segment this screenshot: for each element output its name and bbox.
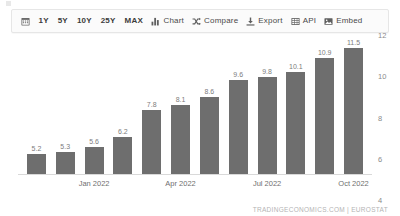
compare-label: Compare [204, 17, 238, 25]
calendar-button[interactable] [17, 10, 34, 32]
y-axis-tick: 12 [378, 32, 386, 40]
bar-value-label: 8.1 [176, 96, 186, 103]
bar-slot[interactable]: 5.6 [80, 40, 109, 174]
range-button-1y[interactable]: 1Y [34, 10, 53, 32]
chart-type-button[interactable]: Chart [147, 10, 188, 32]
bar-value-label: 9.8 [262, 68, 272, 75]
bar-slot[interactable]: 11.5 [339, 40, 368, 174]
bar[interactable]: 9.6 [229, 80, 248, 174]
y-axis-tick: 8 [378, 115, 382, 123]
range-button-25y[interactable]: 25Y [96, 10, 120, 32]
embed-label: Embed [336, 17, 362, 25]
embed-button[interactable]: Embed [320, 10, 366, 32]
bar-value-label: 10.9 [318, 49, 332, 56]
x-axis-tick: Jul 2022 [253, 180, 281, 188]
bar[interactable]: 5.3 [56, 152, 75, 174]
plot-region: 5.25.35.66.27.88.18.69.69.810.110.911.5 [18, 40, 372, 175]
compare-button[interactable]: Compare [188, 10, 242, 32]
bar-slot[interactable]: 9.8 [253, 40, 282, 174]
calendar-icon [21, 17, 30, 26]
range-label: 1Y [39, 17, 49, 25]
bar[interactable]: 10.9 [315, 58, 334, 174]
y-axis-tick: 6 [378, 156, 382, 164]
bar[interactable]: 9.8 [258, 77, 277, 174]
bar-value-label: 6.2 [118, 128, 128, 135]
range-button-5y[interactable]: 5Y [53, 10, 72, 32]
grid-api-icon [291, 17, 300, 26]
top-spacer [0, 0, 400, 8]
bar-value-label: 10.1 [289, 63, 303, 70]
x-axis-tick: Oct 2022 [338, 180, 368, 188]
y-axis: 4681012 [374, 36, 398, 201]
range-label: 25Y [101, 17, 116, 25]
download-export-icon [246, 17, 255, 26]
chart-area: 5.25.35.66.27.88.18.69.69.810.110.911.5 … [0, 36, 400, 201]
bar-slot[interactable]: 8.1 [166, 40, 195, 174]
bar-value-label: 5.2 [32, 145, 42, 152]
export-label: Export [258, 17, 282, 25]
bar[interactable]: 5.2 [27, 154, 46, 174]
bar-slot[interactable]: 9.6 [224, 40, 253, 174]
bar[interactable]: 5.6 [85, 147, 104, 174]
image-embed-icon [324, 17, 333, 26]
bar-value-label: 7.8 [147, 101, 157, 108]
bar-slot[interactable]: 5.3 [51, 40, 80, 174]
range-button-max[interactable]: MAX [120, 10, 147, 32]
range-label: MAX [125, 17, 143, 25]
bar-chart-icon [151, 17, 160, 26]
bar[interactable]: 6.2 [113, 137, 132, 174]
x-axis-tick: Apr 2022 [165, 180, 195, 188]
range-label: 10Y [77, 17, 92, 25]
bar[interactable]: 11.5 [344, 48, 363, 174]
bar[interactable]: 8.1 [171, 105, 190, 174]
bar-series: 5.25.35.66.27.88.18.69.69.810.110.911.5 [18, 40, 372, 174]
corner-marker [6, 1, 11, 6]
bar-slot[interactable]: 5.2 [22, 40, 51, 174]
chart-type-label: Chart [163, 17, 184, 25]
api-label: API [303, 17, 317, 25]
bar-slot[interactable]: 6.2 [108, 40, 137, 174]
bar-value-label: 11.5 [347, 39, 360, 46]
bar[interactable]: 7.8 [142, 110, 161, 174]
export-button[interactable]: Export [242, 10, 286, 32]
y-axis-tick: 10 [378, 74, 386, 82]
bar-slot[interactable]: 10.1 [281, 40, 310, 174]
range-label: 5Y [58, 17, 68, 25]
chart-widget: 1Y 5Y 10Y 25Y MAX Chart [0, 0, 400, 216]
bar[interactable]: 10.1 [286, 72, 305, 174]
api-button[interactable]: API [287, 10, 321, 32]
y-axis-tick: 4 [378, 197, 382, 205]
bar-value-label: 5.6 [89, 138, 99, 145]
chart-toolbar: 1Y 5Y 10Y 25Y MAX Chart [11, 9, 389, 33]
bar[interactable]: 8.6 [200, 97, 219, 174]
bar-value-label: 8.6 [205, 88, 215, 95]
x-axis-tick: Jan 2022 [79, 180, 110, 188]
bar-slot[interactable]: 7.8 [137, 40, 166, 174]
bar-slot[interactable]: 8.6 [195, 40, 224, 174]
bar-slot[interactable]: 10.9 [310, 40, 339, 174]
x-axis: Jan 2022Apr 2022Jul 2022Oct 2022 [18, 177, 372, 193]
attribution-text: TRADINGECONOMICS.COM | EUROSTAT [253, 206, 388, 213]
range-button-10y[interactable]: 10Y [72, 10, 96, 32]
bar-value-label: 5.3 [60, 143, 70, 150]
bar-value-label: 9.6 [233, 71, 243, 78]
compare-shuffle-icon [192, 17, 201, 26]
